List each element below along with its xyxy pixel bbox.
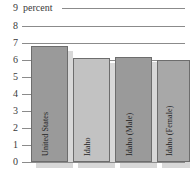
bars-layer: United States Idaho Idaho (Male) [0, 0, 190, 192]
bar-label-idaho: Idaho [83, 137, 92, 156]
bar-label-idaho-female: Idaho (Female) [165, 106, 174, 157]
plot-area: 9 8 7 6 5 4 3 2 1 0 percent United State… [0, 0, 190, 192]
bar-united-states[interactable]: United States [31, 46, 68, 162]
bar-idaho-male[interactable]: Idaho (Male) [115, 57, 152, 162]
bar-idaho[interactable]: Idaho [73, 58, 110, 162]
bar-label-idaho-male: Idaho (Male) [125, 113, 134, 156]
x-axis-baseline [22, 162, 185, 163]
bar-chart: 9 8 7 6 5 4 3 2 1 0 percent United State… [0, 0, 190, 192]
bar-idaho-female[interactable]: Idaho (Female) [157, 60, 190, 162]
bar-label-united-states: United States [41, 112, 50, 156]
